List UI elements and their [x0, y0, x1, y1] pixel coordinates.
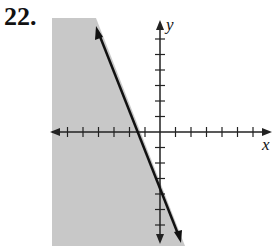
figure: 22. y x [0, 0, 279, 248]
y-axis-label: y [164, 15, 174, 34]
graph: y x [0, 0, 279, 248]
y-axis-arrow-up-icon [156, 20, 164, 30]
x-axis-label: x [261, 135, 270, 154]
